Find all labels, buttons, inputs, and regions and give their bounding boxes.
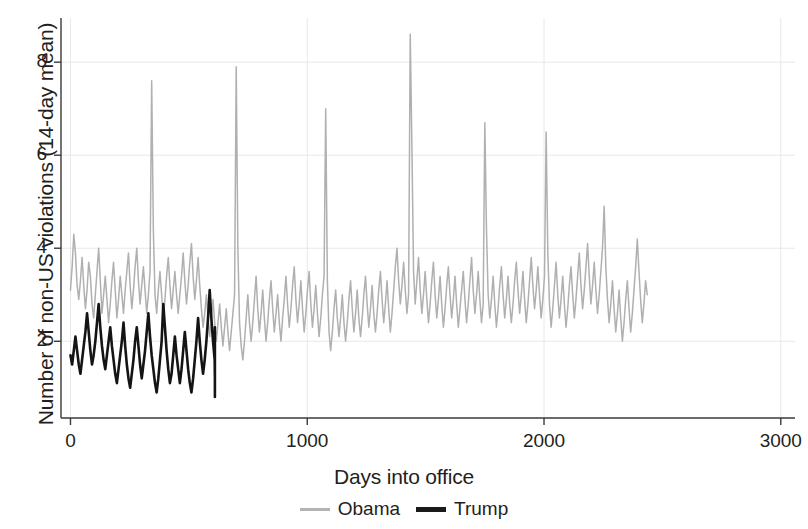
axis-ticks bbox=[54, 62, 781, 425]
x-axis-label: Days into office bbox=[0, 465, 808, 489]
x-tick-label: 3000 bbox=[736, 430, 808, 452]
y-tick-label: 4 bbox=[17, 236, 47, 258]
trump-line-swatch bbox=[416, 507, 446, 512]
series-layer bbox=[70, 34, 647, 397]
axis-spines bbox=[61, 18, 795, 418]
legend-entry-obama[interactable]: Obama bbox=[300, 498, 400, 520]
legend-entry-trump[interactable]: Trump bbox=[416, 498, 508, 520]
legend-label-trump: Trump bbox=[454, 498, 508, 520]
legend-label-obama: Obama bbox=[338, 498, 400, 520]
obama-line-swatch bbox=[300, 508, 330, 511]
y-tick-label: 2 bbox=[17, 329, 47, 351]
gridlines bbox=[61, 18, 795, 418]
chart-legend: Obama Trump bbox=[0, 498, 808, 520]
x-tick-label: 0 bbox=[25, 430, 115, 452]
x-tick-label: 1000 bbox=[262, 430, 352, 452]
x-tick-label: 2000 bbox=[499, 430, 589, 452]
y-axis-label: Number of non-US violations (14-day mean… bbox=[34, 14, 58, 434]
y-tick-label: 6 bbox=[17, 143, 47, 165]
plot-canvas bbox=[0, 0, 808, 529]
y-tick-label: 8 bbox=[17, 50, 47, 72]
chart-figure: Number of non-US violations (14-day mean… bbox=[0, 0, 808, 529]
